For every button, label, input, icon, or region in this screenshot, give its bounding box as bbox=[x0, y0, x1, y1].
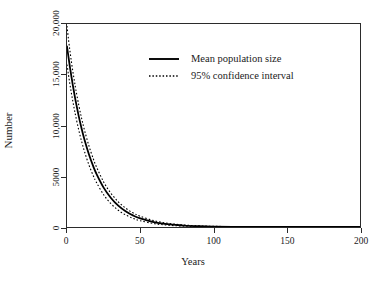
x-tick-label: 50 bbox=[135, 236, 145, 246]
x-tick-mark bbox=[66, 228, 67, 233]
legend-dotted-line-icon bbox=[149, 70, 179, 82]
y-tick-label: 5000 bbox=[52, 177, 61, 233]
ci-lower-curve bbox=[67, 65, 360, 227]
y-tick-label: 10,000 bbox=[52, 126, 61, 182]
legend-label-ci: 95% confidence interval bbox=[191, 70, 294, 82]
y-tick-label-text: 20,000 bbox=[52, 0, 61, 51]
x-tick-label: 100 bbox=[206, 236, 220, 246]
y-tick-label: 15,000 bbox=[52, 74, 61, 130]
x-tick-label: 200 bbox=[354, 236, 368, 246]
x-tick-mark bbox=[214, 228, 215, 233]
chart-legend: Mean population size 95% confidence inte… bbox=[149, 50, 339, 84]
y-tick-label: 20,000 bbox=[52, 23, 61, 79]
legend-solid-line-icon bbox=[149, 53, 179, 65]
x-tick-label: 0 bbox=[64, 236, 69, 246]
x-tick-label: 150 bbox=[280, 236, 294, 246]
x-tick-mark bbox=[287, 228, 288, 233]
x-tick-mark bbox=[140, 228, 141, 233]
legend-label-mean: Mean population size bbox=[191, 53, 281, 65]
x-axis-title: Years bbox=[0, 256, 386, 267]
legend-item: 95% confidence interval bbox=[149, 67, 339, 84]
chart-figure: Number 0500010,00015,00020,000 050100150… bbox=[0, 0, 386, 287]
x-tick-mark bbox=[361, 228, 362, 233]
y-axis-title: Number bbox=[3, 112, 14, 148]
legend-item: Mean population size bbox=[149, 50, 339, 67]
